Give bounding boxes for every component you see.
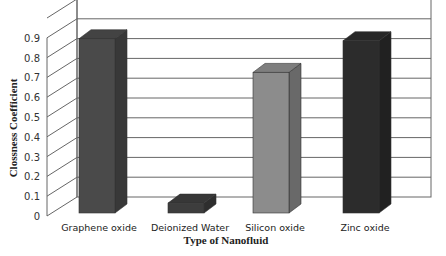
y-tick-label: 0.3 [24,152,40,163]
bar-chart: 00.10.20.30.40.50.60.70.80.9 Graphene ox… [0,0,446,256]
bar-graphene-oxide [79,30,127,213]
y-tick-label: 0.4 [24,132,40,143]
y-tick-label: 0.2 [24,171,40,182]
y-tick-label: 0.1 [24,191,40,202]
y-tick-label: 0.9 [24,33,40,44]
y-tick-label: 0.6 [24,92,40,103]
y-tick-label: 0.8 [24,53,40,64]
y-tick-label: 0 [34,211,40,222]
y-axis-title: Clossness Coefficient [7,78,19,177]
y-axis-ticks: 00.10.20.30.40.50.60.70.80.9 [24,33,40,222]
bar-zinc-oxide [343,32,391,213]
x-axis-categories: Graphene oxideDeionized WaterSilicon oxi… [61,222,389,233]
x-category-label: Deionized Water [151,222,229,233]
y-tick-label: 0.7 [24,72,40,83]
bar-silicon-oxide [253,63,301,213]
x-category-label: Graphene oxide [61,222,137,233]
x-axis-title: Type of Nanofluid [184,234,269,246]
x-category-label: Zinc oxide [340,222,389,233]
x-category-label: Silicon oxide [245,222,305,233]
y-tick-label: 0.5 [24,112,40,123]
